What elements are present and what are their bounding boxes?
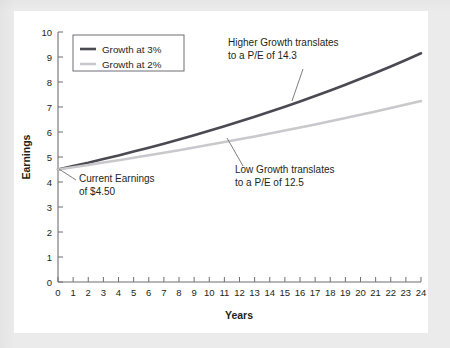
x-tick-label: 17 [310,287,321,298]
x-tick-label: 20 [355,287,366,298]
chart-legend[interactable]: Growth at 3%Growth at 2% [73,35,184,71]
x-tick-label: 18 [325,287,336,298]
y-tick-label: 8 [47,77,52,88]
annotation-current-earnings: Current Earningsof $4.50 [59,169,155,197]
legend-label-1[interactable]: Growth at 3% [102,44,162,55]
x-tick-label: 14 [264,287,275,298]
x-tick-label: 21 [370,287,381,298]
x-tick-label: 0 [55,287,60,298]
y-axis-label: Earnings [20,134,32,179]
annotation-text-line: Current Earnings [79,173,155,184]
legend-label-2[interactable]: Growth at 2% [102,59,162,70]
annotation-text-line: to a P/E of 14.3 [228,50,297,61]
y-tick-label: 4 [47,177,52,188]
x-tick-label: 15 [280,287,291,298]
annotation-text-line: of $4.50 [79,186,116,197]
x-tick-label: 12 [234,287,245,298]
x-tick-label: 4 [116,287,121,298]
annotation-text-line: Low Growth translates [235,164,335,175]
x-tick-label: 24 [416,287,427,298]
x-tick-label: 11 [219,287,229,298]
chart-card: 012345678910 012345678910111213141516171… [14,11,428,333]
x-tick-label: 22 [385,287,396,298]
x-tick-label: 16 [295,287,306,298]
y-tick-label: 10 [41,27,52,38]
y-tick-label: 3 [47,202,52,213]
x-tick-label: 8 [176,287,181,298]
x-tick-label: 6 [146,287,151,298]
y-tick-label: 1 [47,252,52,263]
annotation-higher-growth: Higher Growth translatesto a P/E of 14.3 [228,37,339,101]
x-tick-label: 10 [204,287,215,298]
x-tick-label: 19 [340,287,351,298]
annotation-text-line: Higher Growth translates [228,37,339,48]
x-tick-label: 7 [161,287,166,298]
x-tick-label: 9 [191,287,196,298]
x-tick-label: 1 [70,287,75,298]
x-tick-label: 2 [86,287,91,298]
y-tick-label: 0 [47,277,52,288]
earnings-growth-chart: 012345678910 012345678910111213141516171… [14,11,428,333]
y-tick-label: 6 [47,127,52,138]
x-tick-label: 23 [401,287,412,298]
figure-root: 012345678910 012345678910111213141516171… [0,0,450,348]
x-tick-label: 3 [101,287,106,298]
y-tick-label: 2 [47,227,52,238]
y-tick-label: 9 [47,52,52,63]
x-axis-label: Years [225,309,253,321]
y-axis-tick-labels: 012345678910 [41,27,52,288]
annotation-text-line: to a P/E of 12.5 [235,177,304,188]
y-axis-ticks [58,32,63,282]
x-tick-label: 13 [249,287,260,298]
y-tick-label: 7 [47,102,52,113]
x-axis-tick-labels: 0123456789101112131415161718192021222324 [55,287,426,298]
y-tick-label: 5 [47,152,52,163]
x-tick-label: 5 [131,287,136,298]
x-axis-ticks [58,277,421,282]
annotation-low-growth: Low Growth translatesto a P/E of 12.5 [227,138,335,188]
